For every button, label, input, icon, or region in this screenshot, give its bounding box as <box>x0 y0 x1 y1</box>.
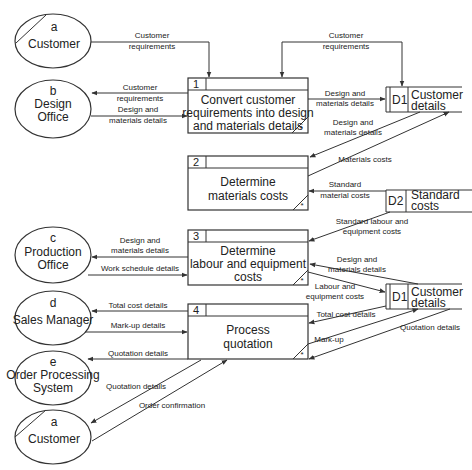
entity-b-design-office[interactable]: b Design Office <box>15 80 91 138</box>
svg-text:requirements: requirements <box>323 42 370 51</box>
svg-text:D1: D1 <box>392 290 408 304</box>
data-flow-diagram: a Customer b Design Office c Production … <box>0 0 472 470</box>
svg-text:Order confirmation: Order confirmation <box>139 401 205 410</box>
svg-text:Customer: Customer <box>329 31 364 40</box>
process-1[interactable]: 1 Convert customer requirements into des… <box>182 78 313 133</box>
svg-text:equipment costs: equipment costs <box>343 227 401 236</box>
entity-a-customer-bottom[interactable]: a Customer <box>15 410 91 464</box>
svg-text:*: * <box>300 201 303 210</box>
svg-text:material costs: material costs <box>320 191 369 200</box>
svg-text:Order Processing: Order Processing <box>6 368 99 382</box>
svg-text:Total cost details: Total cost details <box>108 301 167 310</box>
svg-text:materials details: materials details <box>324 128 382 137</box>
flow-order-confirmation: Order confirmation <box>92 360 227 441</box>
svg-text:D1: D1 <box>392 93 408 107</box>
svg-text:Standard labour and: Standard labour and <box>336 217 409 226</box>
svg-text:and materials details: and materials details <box>193 119 303 133</box>
flow-labour-equipment-costs: Labour and equipment costs <box>306 272 385 301</box>
svg-text:equipment costs: equipment costs <box>306 292 364 301</box>
svg-text:Customer: Customer <box>28 432 80 446</box>
svg-text:Production: Production <box>24 245 81 259</box>
entity-name: Customer <box>28 37 80 51</box>
svg-text:2: 2 <box>193 156 199 168</box>
flow-markup-details: Mark-up details <box>85 321 187 332</box>
svg-text:Standard: Standard <box>329 180 361 189</box>
entity-e-order-processing-system[interactable]: e Order Processing System <box>6 351 99 405</box>
entity-d-sales-manager[interactable]: d Sales Manager <box>13 291 94 345</box>
svg-text:e: e <box>50 355 57 369</box>
svg-text:Customer: Customer <box>123 83 158 92</box>
flow-work-schedule: Work schedule details <box>88 264 187 275</box>
svg-text:materials details: materials details <box>109 116 167 125</box>
svg-text:details: details <box>411 296 446 310</box>
flow-standard-labour-equipment: Standard labour and equipment costs <box>309 212 408 241</box>
svg-text:D2: D2 <box>388 194 404 208</box>
svg-text:materials details: materials details <box>111 246 169 255</box>
svg-text:costs: costs <box>411 199 439 213</box>
svg-text:3: 3 <box>193 230 199 242</box>
flow-design-materials-5: Design and materials details <box>310 255 418 284</box>
svg-text:materials costs: materials costs <box>208 189 288 203</box>
svg-text:System: System <box>33 381 73 395</box>
svg-text:requirements: requirements <box>129 42 176 51</box>
svg-text:Design and: Design and <box>337 255 377 264</box>
entity-c-production-office[interactable]: c Production Office <box>15 227 91 283</box>
svg-text:Design: Design <box>34 97 71 111</box>
svg-text:*: * <box>300 276 303 285</box>
svg-text:Quotation details: Quotation details <box>106 382 166 391</box>
flow-quotation-details-2: Quotation details <box>88 349 188 359</box>
flow-total-cost-1: Total cost details <box>92 301 188 311</box>
store-d2[interactable]: D2 Standard costs <box>386 188 472 213</box>
svg-text:Design and: Design and <box>325 89 365 98</box>
svg-text:costs: costs <box>234 270 262 284</box>
svg-text:quotation: quotation <box>223 337 272 351</box>
svg-text:Office: Office <box>37 258 68 272</box>
svg-text:Total cost details: Total cost details <box>316 310 375 319</box>
svg-text:Work schedule details: Work schedule details <box>101 264 179 273</box>
svg-text:Sales Manager: Sales Manager <box>13 313 94 327</box>
svg-text:a: a <box>51 415 58 429</box>
svg-text:Mark-up details: Mark-up details <box>111 321 166 330</box>
entity-a-customer-top[interactable]: a Customer <box>15 14 91 68</box>
svg-text:Design and: Design and <box>333 118 373 127</box>
svg-text:Office: Office <box>37 110 68 124</box>
flow-total-cost-2: Total cost details <box>309 306 386 323</box>
process-number: 1 <box>193 78 199 90</box>
svg-text:Process: Process <box>226 323 269 337</box>
process-3[interactable]: 3 Determine labour and equipment costs * <box>188 230 308 285</box>
svg-text:b: b <box>50 84 57 98</box>
svg-text:Mark-up: Mark-up <box>314 335 344 344</box>
svg-text:c: c <box>50 231 56 245</box>
svg-text:Quotation details: Quotation details <box>108 349 168 358</box>
svg-text:requirements: requirements <box>117 94 164 103</box>
flow-standard-material-costs: Standard material costs <box>309 180 386 200</box>
svg-text:Quotation details: Quotation details <box>400 323 460 332</box>
svg-text:Materials costs: Materials costs <box>338 155 391 164</box>
store-d1-bottom[interactable]: D1 Customer details <box>386 284 463 310</box>
flow-customer-requirements-1: Customer requirements <box>91 31 209 77</box>
flow-design-materials-1: Design and materials details <box>91 105 187 125</box>
svg-text:Design and: Design and <box>120 236 160 245</box>
svg-text:Convert customer: Convert customer <box>201 93 296 107</box>
flow-materials-costs: Materials costs <box>308 112 449 176</box>
svg-text:details: details <box>411 99 446 113</box>
flow-design-materials-4: Design and materials details <box>92 236 188 257</box>
svg-text:materials details: materials details <box>328 265 386 274</box>
svg-text:*: * <box>300 350 303 359</box>
svg-text:Design and: Design and <box>118 105 158 114</box>
svg-text:Labour and: Labour and <box>315 282 355 291</box>
process-4[interactable]: 4 Process quotation * <box>188 304 308 359</box>
svg-text:materials details: materials details <box>316 99 374 108</box>
duplicate-marker: * <box>299 124 302 133</box>
svg-text:Determine: Determine <box>220 175 276 189</box>
flow-design-materials-2: Design and materials details <box>308 89 385 108</box>
entity-id: a <box>51 20 58 34</box>
svg-text:4: 4 <box>193 304 199 316</box>
flow-customer-requirements-3: Customer requirements <box>92 83 188 103</box>
svg-text:labour and equipment: labour and equipment <box>190 257 307 271</box>
svg-text:Determine: Determine <box>220 244 276 258</box>
svg-text:Customer: Customer <box>135 31 170 40</box>
flow-quotation-details-3: Quotation details <box>91 360 201 423</box>
store-d1-top[interactable]: D1 Customer details <box>386 87 463 113</box>
process-2[interactable]: 2 Determine materials costs * <box>188 156 308 210</box>
